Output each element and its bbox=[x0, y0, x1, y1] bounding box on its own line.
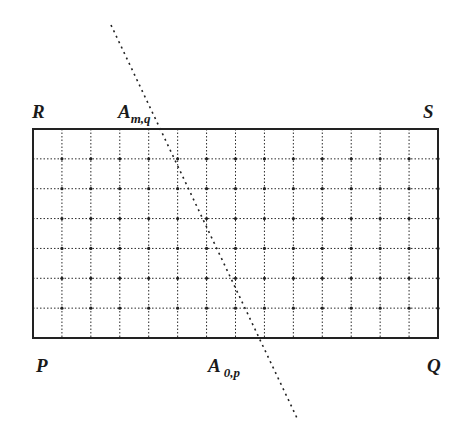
lattice-point bbox=[60, 157, 63, 160]
lattice-point bbox=[60, 247, 63, 250]
lattice-point bbox=[234, 187, 237, 190]
lattice-points bbox=[60, 157, 439, 309]
lattice-point bbox=[147, 307, 150, 310]
lattice-point bbox=[321, 307, 324, 310]
lattice-point bbox=[263, 247, 266, 250]
lattice-point bbox=[60, 307, 63, 310]
lattice-point bbox=[147, 217, 150, 220]
lattice-point bbox=[263, 217, 266, 220]
lattice-point bbox=[234, 157, 237, 160]
lattice-point bbox=[176, 307, 179, 310]
lattice-point bbox=[89, 187, 92, 190]
label-A-m-q-main: A bbox=[118, 101, 131, 122]
lattice-point bbox=[292, 217, 295, 220]
lattice-point bbox=[147, 277, 150, 280]
lattice-point bbox=[350, 307, 353, 310]
lattice-point bbox=[321, 277, 324, 280]
lattice-point bbox=[379, 187, 382, 190]
lattice-point bbox=[321, 187, 324, 190]
lattice-point bbox=[350, 247, 353, 250]
lattice-point bbox=[321, 157, 324, 160]
label-S: S bbox=[423, 102, 434, 121]
lattice-point bbox=[205, 157, 208, 160]
lattice-point bbox=[118, 307, 121, 310]
lattice-point bbox=[60, 187, 63, 190]
lattice-point bbox=[234, 307, 237, 310]
label-P: P bbox=[36, 356, 48, 375]
lattice-point bbox=[263, 157, 266, 160]
lattice-point bbox=[379, 217, 382, 220]
lattice-point bbox=[350, 277, 353, 280]
lattice-point bbox=[147, 247, 150, 250]
lattice-point bbox=[176, 217, 179, 220]
lattice-point bbox=[321, 217, 324, 220]
label-A-0-p-subscript: 0,p bbox=[224, 365, 240, 380]
lattice-point bbox=[176, 247, 179, 250]
lattice-point bbox=[292, 277, 295, 280]
label-A-0-p: A0,p bbox=[208, 356, 240, 375]
lattice-point bbox=[60, 217, 63, 220]
lattice-point bbox=[205, 277, 208, 280]
lattice-point bbox=[118, 187, 121, 190]
lattice-point bbox=[292, 157, 295, 160]
lattice-point bbox=[60, 277, 63, 280]
lattice-point bbox=[407, 187, 410, 190]
label-Q: Q bbox=[427, 356, 441, 375]
lattice-point bbox=[321, 247, 324, 250]
lattice-point bbox=[407, 277, 410, 280]
lattice-point bbox=[176, 157, 179, 160]
lattice-point bbox=[234, 217, 237, 220]
lattice-point bbox=[118, 157, 121, 160]
lattice-point bbox=[379, 307, 382, 310]
dotted-cutting-line bbox=[111, 25, 297, 418]
lattice-point bbox=[350, 157, 353, 160]
lattice-point bbox=[205, 187, 208, 190]
lattice-point bbox=[89, 217, 92, 220]
lattice-point bbox=[234, 247, 237, 250]
lattice-point bbox=[407, 247, 410, 250]
lattice-point bbox=[89, 277, 92, 280]
lattice-point bbox=[407, 307, 410, 310]
label-A-m-q-subscript: m,q bbox=[131, 111, 151, 126]
lattice-point bbox=[205, 307, 208, 310]
label-R: R bbox=[32, 102, 45, 121]
lattice-point bbox=[263, 277, 266, 280]
lattice-point bbox=[176, 187, 179, 190]
lattice-point bbox=[118, 277, 121, 280]
label-A-m-q: Am,q bbox=[118, 102, 151, 121]
lattice-point bbox=[379, 277, 382, 280]
lattice-point bbox=[379, 157, 382, 160]
lattice-point bbox=[407, 157, 410, 160]
lattice-point bbox=[89, 157, 92, 160]
lattice-point bbox=[263, 307, 266, 310]
lattice-point bbox=[350, 187, 353, 190]
label-A-0-p-main: A bbox=[208, 355, 221, 376]
lattice-point bbox=[292, 247, 295, 250]
lattice-point bbox=[292, 187, 295, 190]
lattice-point bbox=[118, 217, 121, 220]
lattice-point bbox=[263, 187, 266, 190]
lattice-point bbox=[292, 307, 295, 310]
lattice-point bbox=[205, 247, 208, 250]
lattice-point bbox=[205, 217, 208, 220]
lattice-point bbox=[147, 157, 150, 160]
lattice-point bbox=[379, 247, 382, 250]
lattice-point bbox=[89, 307, 92, 310]
lattice-point bbox=[147, 187, 150, 190]
lattice-point bbox=[407, 217, 410, 220]
lattice-point bbox=[118, 247, 121, 250]
lattice-point bbox=[176, 277, 179, 280]
lattice-point bbox=[89, 247, 92, 250]
lattice-point bbox=[350, 217, 353, 220]
lattice-point bbox=[234, 277, 237, 280]
